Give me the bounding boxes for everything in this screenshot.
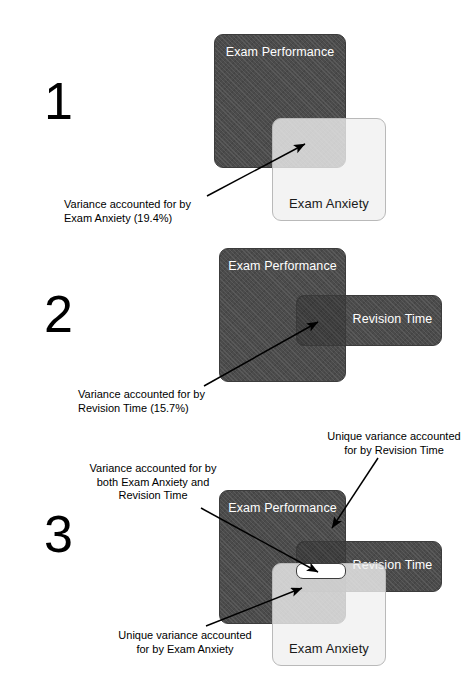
panel-3-number: 3 — [44, 508, 73, 560]
panel-1-callout-variance-anxiety: Variance accounted for by Exam Anxiety (… — [64, 198, 228, 225]
panel-1-label-exam-anxiety: Exam Anxiety — [273, 197, 385, 212]
panel-2-label-revision-time: Revision Time — [342, 312, 443, 327]
panel-2-label-exam-performance: Exam Performance — [220, 259, 345, 274]
panel-3-callout-variance-both: Variance accounted for by both Exam Anxi… — [72, 462, 234, 503]
panel-2-overlap-performance-revision — [296, 295, 346, 346]
panel-2-number: 2 — [44, 288, 73, 340]
panel-3-callout-unique-revision: Unique variance accounted for by Revisio… — [318, 430, 470, 457]
figure-canvas: 1 Exam Performance Exam Anxiety Variance… — [0, 0, 474, 679]
panel-1-box-exam-anxiety: Exam Anxiety — [272, 118, 386, 221]
panel-2-callout-variance-revision: Variance accounted for by Revision Time … — [78, 388, 242, 415]
panel-3-label-exam-anxiety: Exam Anxiety — [273, 642, 385, 657]
panel-3-label-exam-performance: Exam Performance — [220, 501, 345, 516]
panel-1-label-exam-performance: Exam Performance — [215, 45, 345, 60]
panel-3-region-shared-variance — [296, 563, 346, 579]
panel-3-callout-unique-anxiety: Unique variance accounted for by Exam An… — [104, 629, 266, 656]
panel-1-number: 1 — [44, 75, 73, 127]
